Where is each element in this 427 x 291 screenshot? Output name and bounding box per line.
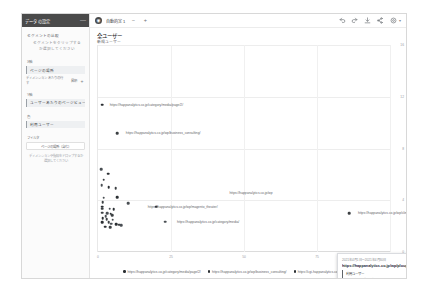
tooltip-metric-key: 利用ユーザー	[346, 271, 408, 276]
plus-icon[interactable]: +	[141, 18, 149, 24]
point-label: https://happanalytics.co.jp/wp/business_…	[126, 131, 201, 135]
scatter-point[interactable]	[114, 187, 117, 190]
chart-subtitle: 新規ユーザー	[97, 39, 121, 44]
download-icon[interactable]	[364, 17, 371, 24]
y-axis-section-label: Y軸	[27, 92, 85, 97]
color-section-label: 色	[27, 114, 85, 119]
legend-color-dot	[208, 270, 210, 272]
redo-icon[interactable]	[351, 17, 358, 24]
scatter-point[interactable]	[115, 223, 118, 226]
chevron-down-icon[interactable]: ▾	[399, 18, 401, 23]
minus-icon[interactable]: −	[129, 18, 137, 24]
scatter-point[interactable]	[116, 132, 119, 135]
tooltip-url: https://happanalytics.co.jp/wp/plougdad/	[342, 264, 407, 268]
chart-toolbar: ◉ 自動的定 1 − +	[90, 14, 406, 28]
x-axis-tick-label: 25	[169, 255, 173, 259]
x-axis-sort-label: ディメンション あたりの行 す	[26, 76, 66, 85]
x-axis-section-label: X軸	[27, 59, 85, 64]
y-axis-metric-chip[interactable]: ユーザーあたりのページビュー	[26, 99, 85, 107]
color-metric-chip[interactable]: 利用ユーザー	[26, 121, 85, 129]
y-axis-tick-label: 16	[400, 43, 404, 47]
segment-compare-hint: セグメントをクリップするか選択してください	[26, 41, 85, 52]
scatter-point[interactable]	[101, 103, 104, 106]
toolbar-right-group: ▾	[339, 17, 401, 24]
segment-compare-title: セグメントの比較	[27, 33, 85, 38]
chart-tab-label[interactable]: 自動的定 1	[106, 18, 125, 24]
scatter-point[interactable]	[107, 186, 110, 189]
plus-icon[interactable]: +	[79, 78, 85, 84]
scatter-point[interactable]	[107, 172, 110, 175]
y-axis-tick-label: 4	[402, 198, 404, 202]
scatter-point[interactable]	[100, 168, 103, 171]
scatter-point[interactable]	[112, 208, 115, 211]
gridline	[244, 45, 245, 252]
report-editor-window: データの設定 — セグメントの比較 セグメントをクリップするか選択してください …	[21, 13, 407, 279]
legend-item[interactable]: https://happanalytics.co.jp/category/med…	[123, 270, 201, 274]
scatter-point[interactable]	[108, 207, 111, 210]
scatter-point[interactable]	[101, 201, 104, 204]
x-axis-sort-row: ディメンション あたりの行 す 昇順 +	[26, 76, 85, 85]
scatter-point[interactable]	[104, 225, 107, 228]
scatter-point[interactable]	[105, 218, 108, 221]
data-config-panel: データの設定 — セグメントの比較 セグメントをクリップするか選択してください …	[22, 14, 90, 278]
plot-area[interactable]: 04812160255075100https://happanalytics.c…	[97, 45, 390, 252]
x-axis-tick-label: 75	[315, 255, 319, 259]
gridline	[390, 45, 391, 252]
scatter-point[interactable]	[116, 196, 119, 199]
y-axis-tick-label: 8	[402, 147, 404, 151]
x-axis-tick-label: 0	[97, 255, 99, 259]
tooltip-date-range: 2021年4月1日～2021年4月30日	[342, 257, 407, 262]
scatter-point[interactable]	[111, 214, 114, 217]
scatter-point[interactable]	[164, 220, 167, 223]
scatter-point[interactable]	[101, 221, 104, 224]
scatter-point[interactable]	[100, 184, 103, 187]
point-label: https://happanalytics.co.jp/category/med…	[177, 220, 239, 224]
minimize-icon[interactable]: —	[80, 19, 86, 22]
legend-color-dot	[123, 270, 125, 272]
undo-icon[interactable]	[339, 17, 346, 24]
panel-header: データの設定 —	[22, 14, 89, 27]
tooltip-metric-row: 利用ユーザー 83	[342, 270, 407, 276]
panel-title: データの設定	[25, 18, 80, 24]
filter-chip[interactable]: ページの場所（含む）	[26, 142, 85, 150]
point-label: https://happanalytics.co.jp/category/med…	[110, 103, 183, 107]
gridline	[171, 45, 172, 252]
scatter-point[interactable]	[101, 217, 104, 220]
point-label: https://happanalytics.co.jp/wp	[229, 191, 272, 195]
legend-color-dot	[294, 270, 296, 272]
filter-section-label: フィルタ	[27, 135, 85, 140]
chart-badge-icon[interactable]: ◉	[95, 17, 102, 24]
x-axis-sort-value[interactable]: 昇順	[68, 78, 77, 83]
x-axis-dimension-chip[interactable]: ページの場所	[26, 66, 85, 74]
scatter-point[interactable]	[101, 207, 104, 210]
scatter-point[interactable]	[109, 226, 112, 229]
share-icon[interactable]	[376, 17, 384, 24]
scatter-point[interactable]	[106, 212, 109, 215]
tooltip-metric-key: ユーザーあたりのビュー	[346, 277, 408, 280]
filter-help-text: ディメンションや指標をドロップするか選択してください	[26, 154, 85, 164]
scatter-point[interactable]	[348, 212, 351, 215]
report-canvas: ◉ 自動的定 1 − +	[90, 14, 406, 278]
settings-icon[interactable]	[390, 17, 397, 24]
point-label: https://happanalytics.co.jp/wp/climaptod…	[358, 211, 407, 215]
legend-label: https://happanalytics.co.jp/category/med…	[127, 270, 200, 274]
scatter-point[interactable]	[103, 196, 106, 199]
legend-label: https://happanalytics.co.jp/wp/business_…	[212, 270, 287, 274]
scatter-point[interactable]	[101, 211, 104, 214]
gridline	[317, 45, 318, 252]
toolbar-left-group: ◉ 自動的定 1 − +	[95, 17, 339, 24]
point-label: https://happanalytics.co.jp/wp/magento_t…	[148, 205, 218, 209]
tooltip-metric-row: ユーザーあたりのビュー 2.7	[342, 276, 407, 279]
y-axis-tick-label: 12	[400, 95, 404, 99]
scatter-point[interactable]	[120, 224, 123, 227]
scatter-point[interactable]	[127, 202, 130, 205]
chart-tooltip: 2021年4月1日～2021年4月30日 https://happanalyti…	[337, 253, 407, 279]
scatter-point[interactable]	[110, 222, 113, 225]
scatter-point[interactable]	[112, 218, 115, 221]
legend-item[interactable]: https://happanalytics.co.jp/wp/business_…	[208, 270, 287, 274]
x-axis-tick-label: 50	[242, 255, 246, 259]
scatter-chart: 全ユーザー 新規ユーザー 04812160255075100https://ha…	[90, 28, 406, 279]
panel-body: セグメントの比較 セグメントをクリップするか選択してください X軸 ページの場所…	[22, 27, 89, 164]
scatter-point[interactable]	[103, 178, 106, 181]
